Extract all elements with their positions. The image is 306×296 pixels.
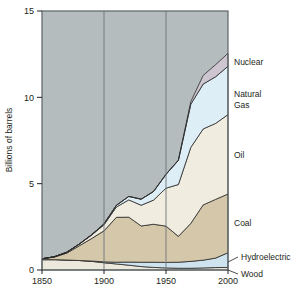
y-axis: 051015: [24, 6, 42, 275]
legend-label-wood: Wood: [241, 269, 263, 279]
legend-label-natural-gas-line2: Gas: [234, 100, 250, 110]
legend-label-oil: Oil: [234, 150, 245, 160]
y-tick-label: 15: [24, 6, 34, 16]
x-tick-label: 1900: [94, 276, 114, 286]
leader-line-wood: [228, 270, 238, 274]
x-axis: 1850190019502000: [32, 270, 238, 286]
y-tick-label: 10: [24, 93, 34, 103]
figure-caption: [10, 287, 300, 296]
y-tick-label: 0: [29, 265, 34, 275]
x-tick-label: 1850: [32, 276, 52, 286]
y-axis-title: Billions of barrels: [4, 108, 14, 173]
legend-label-natural-gas-line1: Natural: [234, 89, 262, 99]
stacked-area-chart: 051015 1850190019502000 Billions of barr…: [0, 0, 306, 296]
legend-label-hydroelectric: Hydroelectric: [241, 252, 291, 262]
legend-label-coal: Coal: [234, 218, 252, 228]
y-tick-label: 5: [29, 179, 34, 189]
figure-container: 051015 1850190019502000 Billions of barr…: [0, 0, 306, 296]
x-tick-label: 2000: [218, 276, 238, 286]
leader-line-hydroelectric: [228, 257, 238, 262]
legend-label-nuclear: Nuclear: [234, 57, 263, 67]
x-tick-label: 1950: [156, 276, 176, 286]
